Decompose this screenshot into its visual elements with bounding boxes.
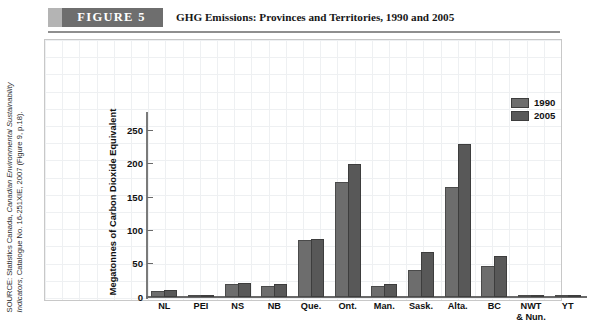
- bar-2005[interactable]: [311, 239, 324, 297]
- bar-2005[interactable]: [164, 290, 177, 297]
- legend-swatch: [511, 111, 529, 121]
- bar-2005[interactable]: [531, 295, 544, 297]
- bar-1990[interactable]: [151, 291, 164, 297]
- bar-1990[interactable]: [555, 295, 568, 297]
- source-note-suffix: , Catalogue No. 16-251XIE, 2007 (Figure …: [15, 111, 24, 279]
- bar-group: [366, 284, 403, 297]
- bar-1990[interactable]: [371, 286, 384, 297]
- bar-1990[interactable]: [335, 182, 348, 297]
- bar-2005[interactable]: [238, 283, 251, 297]
- y-axis-tick-label: 100: [127, 225, 147, 236]
- y-axis-tick-label: 250: [127, 125, 147, 136]
- legend-label: 2005: [534, 110, 555, 121]
- bar-2005[interactable]: [494, 256, 507, 297]
- bar-1990[interactable]: [261, 286, 274, 297]
- bar-group: [476, 256, 513, 297]
- figure-header: FIGURE 5 GHG Emissions: Provinces and Te…: [48, 7, 560, 27]
- bar-group: [146, 290, 183, 297]
- bar-group: [403, 252, 440, 297]
- bar-1990[interactable]: [518, 295, 531, 297]
- bar-1990[interactable]: [445, 187, 458, 297]
- source-note: SOURCE: Statistics Canada, Canadian Envi…: [5, 64, 26, 312]
- bar-2005[interactable]: [274, 284, 287, 297]
- bar-2005[interactable]: [348, 164, 361, 297]
- bar-group: [183, 295, 220, 297]
- bar-group: [549, 295, 586, 297]
- x-axis-category-label: YT: [540, 301, 591, 312]
- bar-group: [219, 283, 256, 297]
- chart-legend: 19902005: [511, 97, 555, 121]
- chart-frame: Megatonnes of Carbon Dioxide Equivalent …: [44, 39, 562, 301]
- bar-group: [329, 164, 366, 297]
- y-axis-tick-label: 200: [127, 158, 147, 169]
- y-axis-tick-label: 50: [132, 258, 147, 269]
- bar-group: [439, 144, 476, 297]
- bar-2005[interactable]: [384, 284, 397, 297]
- bar-2005[interactable]: [421, 252, 434, 297]
- bar-2005[interactable]: [568, 295, 581, 297]
- source-note-prefix: SOURCE: Statistics Canada,: [5, 212, 14, 312]
- legend-swatch: [511, 98, 529, 108]
- bar-1990[interactable]: [481, 266, 494, 297]
- figure-title: GHG Emissions: Provinces and Territories…: [176, 11, 454, 23]
- bar-2005[interactable]: [201, 295, 214, 297]
- bar-1990[interactable]: [188, 295, 201, 297]
- bar-group: [293, 239, 330, 297]
- legend-item[interactable]: 2005: [511, 110, 555, 121]
- plot-area: NLPEINSNBQue.Ont.Man.Sask.Alta.BCNWT& Nu…: [146, 117, 586, 297]
- header-divider: [48, 31, 560, 33]
- bar-2005[interactable]: [458, 144, 471, 297]
- figure-number-label: FIGURE 5: [65, 10, 145, 25]
- figure-number-badge: FIGURE 5: [48, 8, 163, 27]
- y-axis-tick-label: 150: [127, 192, 147, 203]
- legend-label: 1990: [534, 97, 555, 108]
- bar-1990[interactable]: [225, 284, 238, 297]
- legend-item[interactable]: 1990: [511, 97, 555, 108]
- bar-1990[interactable]: [298, 240, 311, 297]
- bar-group: [256, 284, 293, 297]
- bar-1990[interactable]: [408, 270, 421, 297]
- bar-group: [513, 295, 550, 297]
